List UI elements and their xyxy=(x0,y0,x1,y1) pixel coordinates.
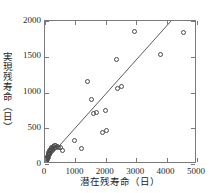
x-axis-tick-top xyxy=(106,21,107,25)
y-axis-tick xyxy=(45,164,49,165)
y-axis-tick-right xyxy=(191,164,195,165)
y-axis-tick-label: 2000 xyxy=(23,16,41,25)
x-axis-tick-label: 0 xyxy=(28,167,60,176)
y-axis-tick-right xyxy=(191,93,195,94)
data-point xyxy=(103,108,108,113)
x-axis-label: 潜在残寿命（日） xyxy=(44,177,196,188)
x-axis-tick xyxy=(45,158,46,162)
y-axis-label-text: 実現残寿命（日） xyxy=(1,52,13,132)
data-point xyxy=(89,97,94,102)
regression-line xyxy=(45,21,195,162)
y-axis-label: 実現残寿命（日） xyxy=(1,20,13,163)
x-axis-tick-top xyxy=(197,21,198,25)
x-axis-tick xyxy=(136,158,137,162)
x-axis-tick-label: 1000 xyxy=(58,167,90,176)
y-axis-tick-label: 500 xyxy=(28,123,42,132)
x-axis-tick xyxy=(75,158,76,162)
data-point xyxy=(85,79,90,84)
plot-frame xyxy=(44,20,196,163)
x-axis-tick-label: 5000 xyxy=(180,167,211,176)
x-axis-tick-top xyxy=(136,21,137,25)
x-axis-tick-label: 3000 xyxy=(119,167,151,176)
data-point xyxy=(79,146,84,151)
data-point xyxy=(158,52,163,57)
y-axis-tick-right xyxy=(191,21,195,22)
x-axis-tick-top xyxy=(45,21,46,25)
data-point xyxy=(119,84,124,89)
data-point xyxy=(181,30,186,35)
plot-area xyxy=(45,21,195,162)
x-axis-tick-label: 4000 xyxy=(150,167,182,176)
y-axis-tick-label: 1500 xyxy=(23,51,41,60)
x-axis-tick-label: 2000 xyxy=(89,167,121,176)
x-axis-tick-top xyxy=(167,21,168,25)
scatter-chart-figure: 実現残寿命（日） 0500100015002000 01000200030004… xyxy=(0,0,211,193)
data-point xyxy=(60,148,65,153)
x-axis-tick-top xyxy=(75,21,76,25)
y-axis-tick xyxy=(45,128,49,129)
x-axis-tick xyxy=(106,158,107,162)
data-point xyxy=(94,110,99,115)
y-axis-tick-right xyxy=(191,128,195,129)
y-axis-tick-right xyxy=(191,57,195,58)
data-point xyxy=(104,128,109,133)
y-axis-tick-label: 1000 xyxy=(23,87,41,96)
x-axis-tick xyxy=(167,158,168,162)
y-axis-tick xyxy=(45,93,49,94)
y-axis-tick xyxy=(45,57,49,58)
x-axis-label-text: 潜在残寿命（日） xyxy=(80,177,160,187)
x-axis-tick xyxy=(197,158,198,162)
